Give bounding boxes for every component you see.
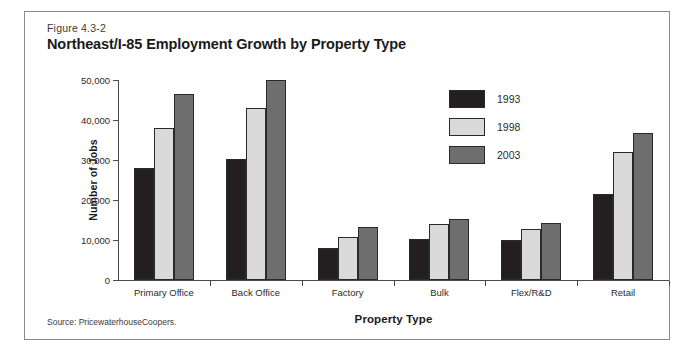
chart-plot-area: Number of Jobs 010,00020,00030,00040,000… [118, 80, 669, 280]
y-axis-tick-label: 50,000 [81, 75, 110, 86]
y-axis-tick-label: 40,000 [81, 115, 110, 126]
x-axis-category-label: Retail [577, 287, 669, 298]
bar-group: Back Office [210, 80, 302, 280]
bar-1993-retail[interactable] [593, 194, 613, 280]
legend-item-2003[interactable]: 2003 [449, 144, 520, 166]
figure-number: Figure 4.3-2 [47, 22, 106, 34]
legend-item-1993[interactable]: 1993 [449, 88, 520, 110]
bar-1998-retail[interactable] [613, 152, 633, 280]
bar-1998-bulk[interactable] [429, 224, 449, 280]
x-axis-category-label: Factory [302, 287, 394, 298]
bar-2003-primary-office[interactable] [174, 94, 194, 280]
figure-title: Northeast/I-85 Employment Growth by Prop… [47, 36, 406, 52]
legend-label-2003: 2003 [497, 149, 520, 161]
legend-swatch-1993 [449, 90, 485, 108]
y-axis-tick [113, 280, 118, 281]
x-axis-category-label: Primary Office [118, 287, 210, 298]
y-axis-tick-label: 10,000 [81, 235, 110, 246]
x-axis-tick [669, 281, 670, 286]
bar-group-bars [302, 80, 394, 280]
legend-swatch-2003 [449, 146, 485, 164]
bar-1998-back-office[interactable] [246, 108, 266, 280]
bar-group-bars [577, 80, 669, 280]
bar-1998-primary-office[interactable] [154, 128, 174, 280]
bar-group: Factory [302, 80, 394, 280]
legend-label-1993: 1993 [497, 93, 520, 105]
figure-frame: Figure 4.3-2 Northeast/I-85 Employment G… [24, 11, 670, 340]
y-axis-tick-label: 30,000 [81, 155, 110, 166]
bar-1993-bulk[interactable] [409, 239, 429, 280]
legend-label-1998: 1998 [497, 121, 520, 133]
x-axis-tick [394, 281, 395, 286]
bar-group-bars [118, 80, 210, 280]
bar-2003-retail[interactable] [633, 133, 653, 280]
x-axis-tick [210, 281, 211, 286]
bar-1993-flex-r-d[interactable] [501, 240, 521, 280]
x-axis-category-label: Back Office [210, 287, 302, 298]
bar-1998-factory[interactable] [338, 237, 358, 280]
bar-1993-back-office[interactable] [226, 159, 246, 280]
bar-2003-bulk[interactable] [449, 219, 469, 280]
bar-2003-back-office[interactable] [266, 80, 286, 280]
bar-group: Retail [577, 80, 669, 280]
bar-group-bars [210, 80, 302, 280]
source-note: Source: PricewaterhouseCoopers. [47, 317, 176, 327]
x-axis-tick [577, 281, 578, 286]
y-axis-tick-label: 20,000 [81, 195, 110, 206]
legend-swatch-1998 [449, 118, 485, 136]
bar-2003-flex-r-d[interactable] [541, 223, 561, 280]
x-axis-tick [485, 281, 486, 286]
x-axis-tick [302, 281, 303, 286]
legend-item-1998[interactable]: 1998 [449, 116, 520, 138]
x-axis-title: Property Type [118, 313, 669, 325]
y-axis-title: Number of Jobs [87, 139, 99, 220]
bar-group: Primary Office [118, 80, 210, 280]
chart-legend: 199319982003 [449, 88, 520, 172]
x-axis-category-label: Bulk [394, 287, 486, 298]
y-axis-tick-label: 0 [105, 275, 110, 286]
bar-1998-flex-r-d[interactable] [521, 229, 541, 280]
x-axis-category-label: Flex/R&D [485, 287, 577, 298]
bar-1993-primary-office[interactable] [134, 168, 154, 280]
bar-2003-factory[interactable] [358, 227, 378, 280]
bar-1993-factory[interactable] [318, 248, 338, 280]
